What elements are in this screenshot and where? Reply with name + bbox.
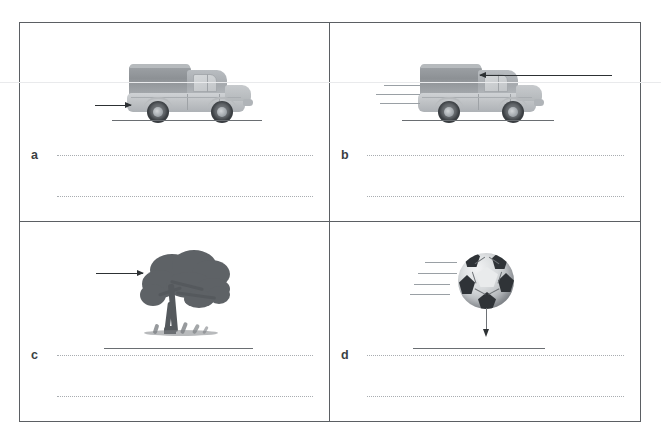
truck-icon	[418, 63, 550, 119]
answer-line-a-2[interactable]	[57, 196, 313, 197]
panel-a-answer-area: a	[20, 149, 329, 215]
motion-line	[425, 262, 457, 263]
panel-a-illustration	[20, 23, 329, 147]
panel-c-illustration	[20, 222, 329, 352]
panel-b-illustration	[330, 23, 640, 147]
panel-d-illustration	[330, 222, 640, 352]
panel-label-a: a	[31, 149, 38, 162]
panel-label-d: d	[341, 349, 349, 362]
panel-b: b	[330, 23, 640, 222]
force-arrow-right	[95, 105, 131, 106]
panel-b-answer-area: b	[330, 149, 640, 215]
motion-line	[380, 103, 420, 104]
force-arrow-left	[480, 75, 612, 76]
motion-line	[418, 273, 457, 274]
panel-c: c	[20, 222, 330, 421]
answer-line-d-2[interactable]	[367, 396, 624, 397]
force-arrow-right	[96, 273, 143, 274]
motion-line	[384, 85, 420, 86]
panel-label-b: b	[341, 149, 349, 162]
motion-line	[414, 284, 450, 285]
answer-line-c-2[interactable]	[57, 396, 313, 397]
tree-icon	[138, 250, 246, 346]
panel-a: a	[20, 23, 330, 222]
motion-line	[376, 94, 420, 95]
panel-label-c: c	[31, 349, 38, 362]
answer-line-d-1[interactable]	[367, 355, 624, 356]
ground-line	[112, 120, 262, 121]
worksheet-frame: a b	[19, 22, 641, 422]
answer-line-c-1[interactable]	[57, 355, 313, 356]
panel-d: d	[330, 222, 640, 421]
answer-line-a-1[interactable]	[57, 155, 313, 156]
force-arrow-down	[486, 308, 487, 330]
soccer-ball-icon	[458, 253, 514, 309]
truck-icon	[127, 63, 259, 119]
ground-line	[402, 120, 554, 121]
answer-line-b-2[interactable]	[367, 196, 624, 197]
panel-c-answer-area: c	[20, 349, 329, 415]
panel-d-answer-area: d	[330, 349, 640, 415]
motion-line	[410, 294, 450, 295]
answer-line-b-1[interactable]	[367, 155, 624, 156]
